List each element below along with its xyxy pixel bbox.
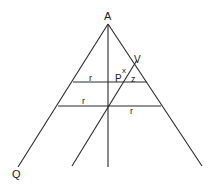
right-edge-line <box>108 24 202 166</box>
label-r-lower-left: r <box>82 96 85 106</box>
label-r-lower-right: r <box>130 106 133 116</box>
slanted-line-through-v <box>72 60 137 166</box>
label-p: P <box>115 73 122 84</box>
label-z: z <box>131 74 136 84</box>
label-x: x <box>122 66 126 75</box>
label-v: V <box>134 54 141 65</box>
label-r-upper-left: r <box>89 73 92 83</box>
label-a: A <box>104 10 112 22</box>
left-edge-line <box>18 24 108 167</box>
label-q: Q <box>12 168 21 180</box>
geometry-diagram: A Q V P x z r r r <box>0 0 209 185</box>
